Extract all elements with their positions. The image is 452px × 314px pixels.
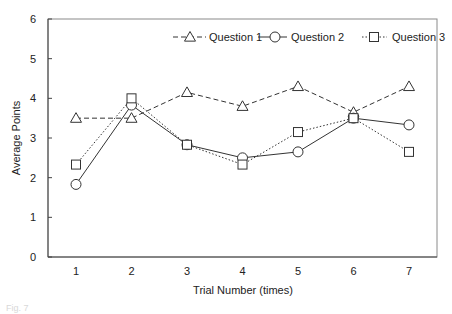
y-tick-label: 3: [30, 132, 36, 144]
data-point-square: [294, 128, 303, 137]
y-tick-label: 6: [30, 13, 36, 25]
x-tick-label: 3: [184, 265, 190, 277]
x-tick-label: 4: [239, 265, 245, 277]
y-axis: 0123456: [30, 13, 52, 263]
y-axis-title: Average Points: [10, 100, 22, 175]
legend-item: Question 3: [362, 31, 445, 43]
data-series: [71, 81, 415, 189]
data-point-triangle: [293, 81, 304, 91]
figure-caption: Fig. 7: [6, 303, 29, 313]
legend-label: Question 2: [291, 31, 344, 43]
data-point-triangle: [71, 113, 82, 123]
series-markers: [71, 81, 415, 122]
legend-label: Question 1: [209, 31, 262, 43]
plot-area: [48, 19, 437, 257]
data-point-square: [238, 160, 247, 169]
legend: Question 1Question 2Question 3: [173, 31, 445, 43]
y-tick-label: 1: [30, 211, 36, 223]
data-point-square: [72, 160, 81, 169]
y-tick-label: 2: [30, 172, 36, 184]
y-tick-label: 5: [30, 53, 36, 65]
data-point-circle: [404, 120, 414, 130]
legend-label: Question 3: [392, 31, 445, 43]
x-tick-label: 2: [128, 265, 134, 277]
data-point-triangle: [404, 81, 415, 91]
x-axis-title: Trial Number (times): [193, 284, 293, 296]
x-tick-label: 5: [295, 265, 301, 277]
data-point-square: [183, 140, 192, 149]
data-point-circle: [293, 147, 303, 157]
y-tick-label: 4: [30, 92, 36, 104]
series-line: [76, 105, 409, 184]
data-point-square: [349, 114, 358, 123]
data-point-triangle: [182, 87, 193, 97]
data-point-circle: [71, 179, 81, 189]
legend-circle-icon: [270, 32, 280, 42]
data-point-square: [127, 94, 136, 103]
x-tick-label: 6: [350, 265, 356, 277]
x-axis: 1234567: [73, 265, 412, 277]
legend-square-icon: [370, 33, 379, 42]
data-point-triangle: [126, 113, 137, 123]
plot-border: [48, 19, 437, 257]
legend-triangle-icon: [185, 32, 196, 42]
line-chart: 0123456 1234567 Question 1Question 2Ques…: [0, 0, 452, 314]
x-tick-label: 7: [406, 265, 412, 277]
x-tick-label: 1: [73, 265, 79, 277]
legend-item: Question 1: [173, 31, 262, 43]
data-point-square: [405, 147, 414, 156]
legend-item: Question 2: [258, 31, 344, 43]
series-question-2: [76, 105, 409, 184]
series-markers: [71, 100, 414, 189]
y-tick-label: 0: [30, 251, 36, 263]
